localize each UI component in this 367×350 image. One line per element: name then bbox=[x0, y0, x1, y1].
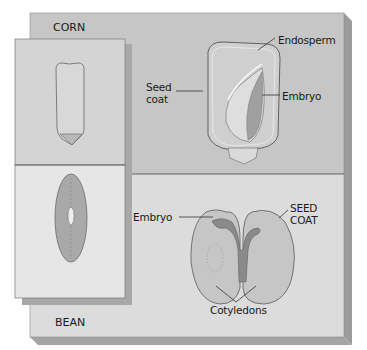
bean-embryo-label: Embryo bbox=[133, 211, 172, 223]
bean-section-label: BEAN bbox=[55, 317, 85, 329]
bean-external bbox=[55, 174, 87, 262]
diagram-graphics bbox=[0, 0, 367, 350]
seed-structure-diagram: CORN Endosperm Seed coat Embryo Embryo S… bbox=[0, 0, 367, 350]
corn-seed-coat-label-line2: coat bbox=[146, 93, 168, 105]
corn-embryo-label: Embryo bbox=[282, 90, 321, 102]
endosperm-label: Endosperm bbox=[278, 34, 336, 46]
bean-seed-coat-label-line1: SEED bbox=[290, 202, 317, 214]
corn-seed-coat-label-line1: Seed bbox=[146, 81, 171, 93]
corn-section-label: CORN bbox=[53, 22, 85, 34]
corn-kernel-external bbox=[56, 63, 84, 145]
bean-seed-coat-label-line2: COAT bbox=[290, 214, 317, 226]
cotyledons-label: Cotyledons bbox=[210, 304, 267, 316]
corn-kernel-cross-section bbox=[208, 42, 280, 164]
